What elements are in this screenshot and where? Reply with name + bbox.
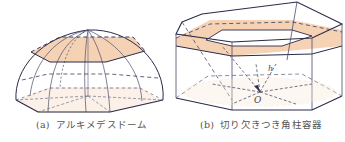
caption-text: 切り欠きつき角柱容器	[220, 119, 322, 130]
height-label: h	[268, 64, 273, 73]
caption-notched-prism-container: (b)切り欠きつき角柱容器	[200, 117, 322, 131]
origin-label: O	[254, 95, 261, 105]
figure-archimedean-dome: (a)アルキメデスドーム	[0, 0, 175, 142]
caption-tag: (a)	[36, 119, 50, 130]
caption-tag: (b)	[200, 119, 214, 130]
figure-notched-prism-container: O h (b)切り欠きつき角柱容器	[172, 0, 345, 142]
caption-text: アルキメデスドーム	[56, 119, 148, 130]
caption-archimedean-dome: (a)アルキメデスドーム	[36, 117, 148, 131]
